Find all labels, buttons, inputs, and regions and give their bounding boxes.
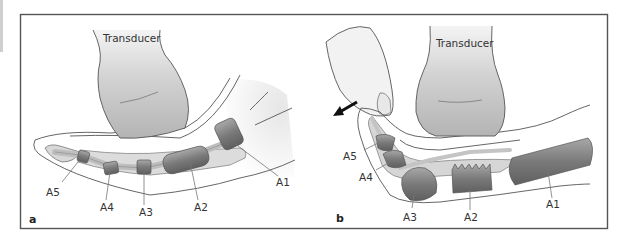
label-b-a3: A3: [403, 211, 417, 223]
pulley-a5: [77, 150, 90, 163]
label-a-a3: A3: [139, 206, 153, 218]
pulley-b5: [376, 134, 395, 150]
pulley-b3: [402, 167, 437, 200]
label-a-a1: A1: [276, 176, 290, 188]
label-b-a1: A1: [546, 198, 560, 210]
label-b-a4: A4: [359, 171, 373, 183]
label-b-a2: A2: [464, 211, 478, 223]
label-a-a5: A5: [46, 186, 60, 198]
label-a-a2: A2: [194, 201, 208, 213]
pulley-a3: [137, 160, 151, 174]
panel-label-b: b: [336, 212, 344, 225]
label-b-a5: A5: [343, 150, 357, 162]
pulley-b2: [452, 164, 492, 193]
label-a-a4: A4: [100, 201, 114, 213]
pulley-a4: [103, 161, 119, 175]
panel-label-a: a: [29, 213, 36, 226]
transducer-label-a: Transducer: [102, 32, 161, 44]
figure-canvas: Transducer A1 A2 A3 A4 A5 a: [0, 0, 627, 242]
transducer-label-b: Transducer: [435, 37, 494, 49]
